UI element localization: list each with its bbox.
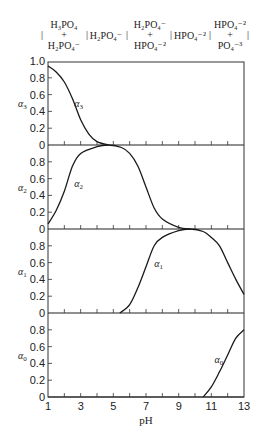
region-labels: | H₃PO₄ + H₂PO₄⁻ | H₂PO₄⁻ | H₂PO₄⁻ + HPO… (41, 19, 249, 51)
y-tick-label: 0.2 (30, 206, 45, 218)
region1-plus: + (61, 29, 67, 40)
separator: | (247, 29, 249, 40)
curve-α0 (203, 330, 244, 397)
y-tick-label: 0.6 (30, 257, 45, 269)
y-axis-title: α3 (18, 98, 27, 111)
y-tick-label: 0.8 (30, 240, 45, 252)
separator: | (126, 29, 128, 40)
x-tick-7: 7 (143, 400, 149, 412)
separator: | (86, 29, 88, 40)
y-tick-label: 0 (39, 307, 45, 319)
y-tick-label: 0.6 (30, 173, 45, 185)
y-tick-label: 0.2 (30, 122, 45, 134)
y-tick-label: 0 (39, 139, 45, 151)
y-tick-label: 0.2 (30, 374, 45, 386)
curve-α1 (120, 229, 244, 313)
y-tick-label: 0.8 (30, 156, 45, 168)
x-tick-5: 5 (110, 400, 116, 412)
y-axis-title: α1 (18, 266, 27, 279)
x-tick-1: 1 (45, 400, 51, 412)
y-axis-title: α2 (18, 182, 27, 195)
y-tick-label: 0.4 (30, 105, 45, 117)
separator: | (209, 29, 211, 40)
y-tick-label: 0.4 (30, 189, 45, 201)
alpha-labels: α3α2α1α0 (74, 98, 224, 367)
x-tick-13: 13 (238, 400, 250, 412)
y-tick-label: 0.2 (30, 290, 45, 302)
region5-bottom: PO₄⁻³ (218, 40, 243, 51)
x-tick-9: 9 (176, 400, 182, 412)
curve-label: α3 (74, 98, 83, 111)
x-tick-11: 11 (206, 400, 217, 412)
y-tick-label: 0.6 (30, 341, 45, 353)
curve-label: α0 (215, 354, 224, 367)
curve-label: α2 (74, 178, 83, 191)
y-tick-label: 1.0 (30, 55, 45, 67)
curve-α2 (48, 145, 190, 229)
curve-label: α1 (154, 258, 163, 271)
region5-plus: + (227, 29, 233, 40)
region3-plus: + (147, 29, 153, 40)
alpha-curves (48, 66, 244, 397)
alpha-distribution-chart: | H₃PO₄ + H₂PO₄⁻ | H₂PO₄⁻ | H₂PO₄⁻ + HPO… (0, 0, 262, 443)
y-tick-label: 0 (39, 223, 45, 235)
y-tick-label: 0.6 (30, 89, 45, 101)
region2-label: H₂PO₄⁻ (90, 30, 122, 41)
separator: | (41, 29, 43, 40)
region4-label: HPO₄⁻² (174, 30, 206, 41)
x-axis-labels: 1 3 5 7 9 11 13 (45, 400, 250, 412)
x-tick-3: 3 (78, 400, 84, 412)
region1-bottom: H₂PO₄⁻ (48, 40, 80, 51)
y-tick-label: 0.8 (30, 72, 45, 84)
y-tick-label: 0.4 (30, 357, 45, 369)
y-tick-label: 0.4 (30, 273, 45, 285)
region3-bottom: HPO₄⁻² (134, 40, 166, 51)
y-axis-labels: 1.00.80.60.40.20α30.80.60.40.20α20.80.60… (18, 55, 45, 403)
x-axis-title: pH (139, 414, 153, 426)
separator: | (170, 29, 172, 40)
y-axis-title: α0 (18, 350, 27, 363)
axis-ticks (48, 78, 228, 397)
y-tick-label: 0.8 (30, 324, 45, 336)
